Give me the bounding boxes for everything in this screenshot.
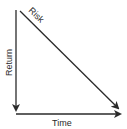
return-label: Return xyxy=(4,49,14,76)
risk-return-time-diagram: Risk Return Time xyxy=(0,0,127,129)
diagram-svg: Risk Return Time xyxy=(0,0,127,129)
time-label: Time xyxy=(52,118,72,128)
risk-arrow xyxy=(20,11,118,108)
risk-label: Risk xyxy=(27,5,47,25)
